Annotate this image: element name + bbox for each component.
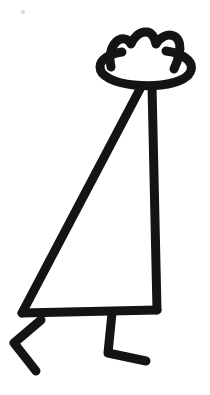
scan-speck (21, 10, 25, 14)
stick-figure-drawing (0, 0, 210, 395)
torso-right-vertical (152, 86, 157, 310)
artboard (0, 0, 210, 395)
torso-base-line (22, 310, 157, 313)
